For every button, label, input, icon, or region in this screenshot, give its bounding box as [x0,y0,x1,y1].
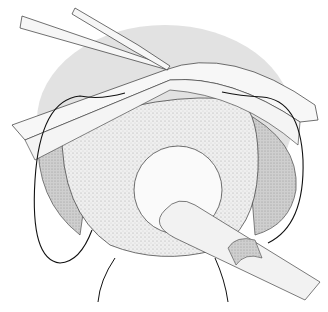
right-leg-line [215,258,228,302]
surgical-illustration [0,0,328,312]
left-leg-line [98,258,115,302]
illustration-svg [0,0,328,312]
